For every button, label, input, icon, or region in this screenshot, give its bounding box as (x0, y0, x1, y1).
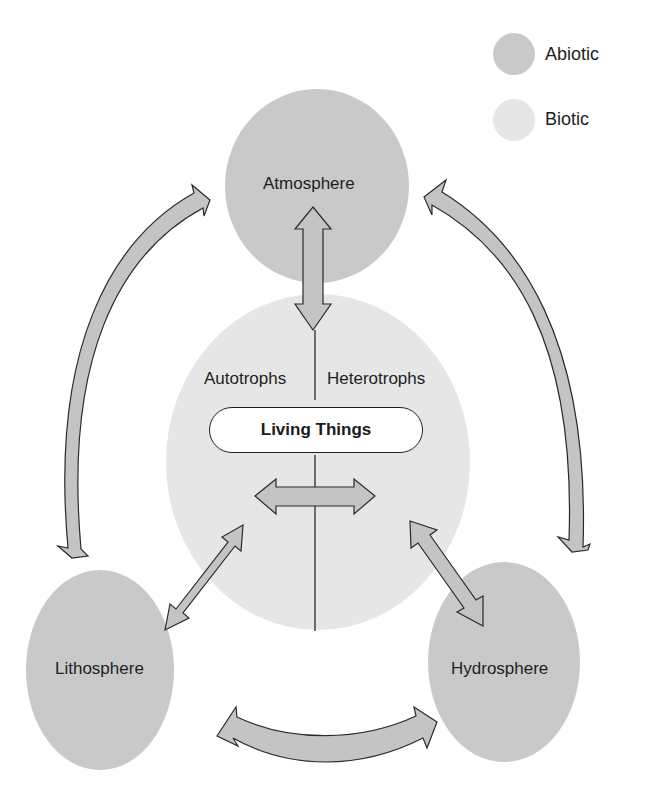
atmosphere-label: Atmosphere (263, 174, 355, 194)
biosphere-node (166, 294, 470, 630)
lithosphere-hydrosphere-arrow (217, 707, 437, 762)
autotrophs-label: Autotrophs (204, 369, 286, 389)
living-things-box: Living Things (209, 407, 423, 453)
lithosphere-label: Lithosphere (55, 659, 144, 679)
living-things-label: Living Things (261, 420, 372, 440)
hydrosphere-label: Hydrosphere (451, 659, 548, 679)
legend-abiotic-swatch (493, 33, 535, 75)
legend-abiotic-label: Abiotic (545, 44, 599, 65)
heterotrophs-label: Heterotrophs (327, 369, 425, 389)
legend-biotic-swatch (493, 99, 535, 141)
legend-biotic-label: Biotic (545, 109, 589, 130)
